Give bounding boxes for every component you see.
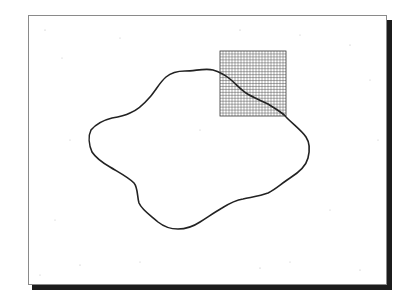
diagram-canvas — [0, 0, 414, 303]
paper-speckles — [40, 29, 379, 275]
sampling-grid — [220, 51, 286, 116]
region-outline — [89, 69, 309, 229]
